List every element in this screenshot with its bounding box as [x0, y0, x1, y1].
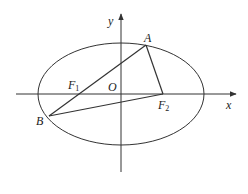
point-A-label: A: [143, 31, 152, 45]
segment-AF2: [146, 45, 163, 94]
ellipse-diagram: y x O A B F1 F2: [0, 0, 248, 194]
point-F2-label: F2: [157, 98, 169, 113]
point-B-label: B: [36, 114, 44, 128]
point-F1-label: F1: [67, 78, 79, 93]
point-F1-subscript: 1: [75, 84, 79, 93]
x-axis-label: x: [225, 98, 232, 112]
segment-BA: [49, 45, 146, 116]
y-axis-label: y: [107, 14, 114, 28]
segment-BF2: [49, 94, 163, 116]
origin-label: O: [108, 80, 117, 94]
point-F2-subscript: 2: [165, 104, 169, 113]
